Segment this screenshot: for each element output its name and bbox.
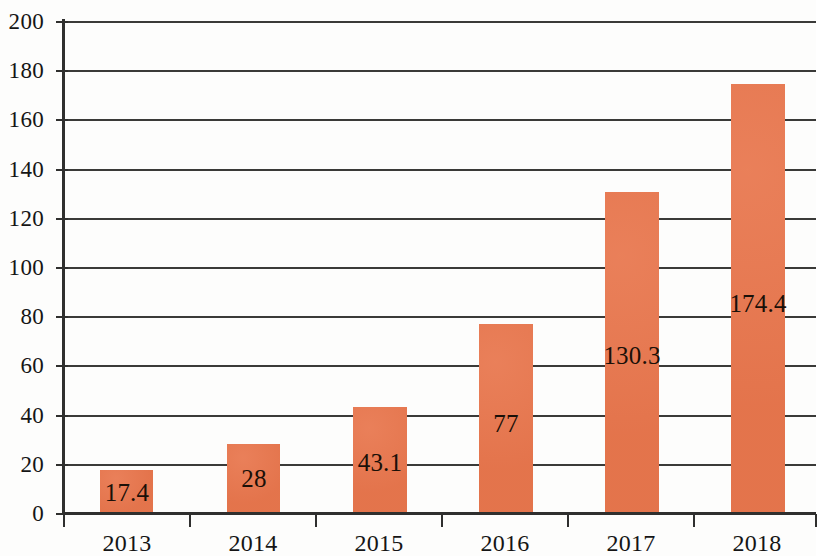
x-tick-5 (693, 514, 695, 527)
y-tick-120 (56, 218, 68, 220)
value-label-2014: 28 (213, 466, 295, 491)
y-tick-60 (56, 365, 68, 367)
x-tick-1 (189, 514, 191, 527)
y-axis-label-160: 160 (0, 108, 44, 131)
y-axis-label-140: 140 (0, 158, 44, 181)
y-axis-label-180: 180 (0, 59, 44, 82)
gridline-120 (62, 218, 816, 220)
y-axis-label-20: 20 (0, 453, 44, 476)
x-tick-4 (567, 514, 569, 527)
gridline-60 (62, 365, 816, 367)
gridline-80 (62, 316, 816, 318)
value-label-2013: 17.4 (86, 480, 168, 505)
value-label-2017: 130.3 (591, 343, 673, 368)
gridline-160 (62, 119, 816, 121)
x-tick-2 (315, 514, 317, 527)
gridline-100 (62, 267, 816, 269)
y-tick-100 (56, 267, 68, 269)
y-axis-label-60: 60 (0, 354, 44, 377)
x-axis-label-2018: 2018 (716, 531, 798, 555)
y-tick-140 (56, 169, 68, 171)
x-axis-label-2016: 2016 (464, 531, 546, 555)
gridline-200 (62, 21, 816, 23)
y-tick-40 (56, 415, 68, 417)
gridline-40 (62, 415, 816, 417)
y-tick-20 (56, 464, 68, 466)
x-axis-line (62, 512, 816, 515)
y-tick-180 (56, 70, 68, 72)
y-tick-80 (56, 316, 68, 318)
x-axis-label-2017: 2017 (590, 531, 672, 555)
value-label-2015: 43.1 (339, 450, 421, 475)
value-label-2018: 174.4 (717, 291, 799, 316)
x-axis-label-2013: 2013 (86, 531, 168, 555)
y-axis-label-40: 40 (0, 404, 44, 427)
value-label-2016: 77 (465, 411, 547, 436)
x-tick-0 (63, 514, 65, 527)
x-tick-3 (441, 514, 443, 527)
gridline-180 (62, 70, 816, 72)
y-axis-label-80: 80 (0, 305, 44, 328)
x-axis-label-2015: 2015 (338, 531, 420, 555)
x-axis-label-2014: 2014 (212, 531, 294, 555)
y-tick-0 (56, 513, 68, 515)
y-tick-160 (56, 119, 68, 121)
y-tick-200 (56, 21, 68, 23)
y-axis-label-200: 200 (0, 10, 44, 33)
gridline-140 (62, 169, 816, 171)
gridline-20 (62, 464, 816, 466)
y-axis-label-100: 100 (0, 256, 44, 279)
y-axis-label-0: 0 (0, 502, 44, 525)
y-axis-label-120: 120 (0, 207, 44, 230)
